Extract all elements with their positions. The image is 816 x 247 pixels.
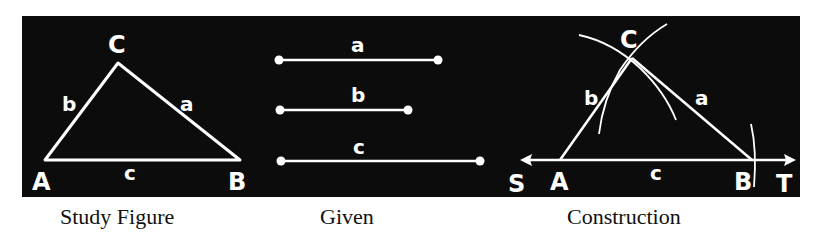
construction-side-a-label: a [695, 86, 709, 110]
study-vertex-c: C [108, 31, 126, 59]
endpoint-dot [434, 56, 443, 65]
caption-given: Given [320, 204, 374, 230]
study-figure: C A B b a c [32, 31, 246, 196]
endpoint-dot [276, 106, 285, 115]
line-end-s: S [508, 170, 525, 198]
given-label-b: b [351, 83, 365, 107]
construction-side-b-label: b [584, 86, 598, 110]
endpoint-dot [476, 157, 485, 166]
given-segment-b: b [276, 83, 413, 115]
given-segment-a: a [275, 33, 443, 65]
endpoint-dot [404, 106, 413, 115]
construction-vertex-a: A [550, 168, 569, 196]
study-side-b: b [62, 92, 76, 116]
endpoint-dot [277, 157, 286, 166]
given-segments: a b c [275, 33, 485, 166]
study-side-c: c [124, 161, 136, 185]
construction-vertex-c: C [620, 26, 638, 54]
construction-vertex-b: B [734, 168, 752, 196]
construction-figure: C A B S T b a c [508, 24, 796, 198]
caption-construction: Construction [567, 204, 681, 230]
study-side-a: a [180, 92, 194, 116]
study-vertex-a: A [32, 168, 51, 196]
line-end-t: T [776, 170, 793, 198]
endpoint-dot [275, 56, 284, 65]
given-label-a: a [351, 33, 365, 57]
given-segment-c: c [277, 135, 485, 166]
caption-study-figure: Study Figure [60, 204, 174, 230]
construction-side-c-label: c [650, 161, 662, 185]
study-vertex-b: B [228, 168, 246, 196]
given-label-c: c [353, 135, 365, 159]
construction-side-a [632, 58, 752, 160]
